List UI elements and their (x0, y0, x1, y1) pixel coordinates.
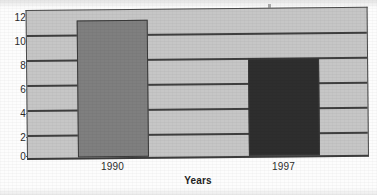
x-axis-title: Years (27, 175, 369, 186)
y-axis-tick: 12 (0, 13, 26, 23)
plot-area (26, 7, 369, 160)
y-axis-tick: 10 (0, 37, 26, 47)
y-axis-tick-label: 10 (14, 36, 26, 47)
y-axis-tick: 2 (0, 133, 26, 143)
x-axis-tick-label: 1990 (88, 161, 138, 172)
bar-chart-figure: 12 10 8 6 4 2 0 19901997 Year (0, 0, 377, 195)
x-axis-tick-label: 1997 (259, 161, 309, 172)
plot-area-wrapper (26, 7, 369, 160)
y-axis-tick-label: 12 (14, 12, 26, 23)
y-axis-tick: 6 (0, 85, 26, 95)
bar-1997 (248, 58, 321, 156)
y-axis-tick: 0 (0, 152, 26, 162)
y-axis: 12 10 8 6 4 2 0 (0, 0, 26, 195)
bar-1990 (76, 19, 149, 157)
y-axis-tick: 8 (0, 61, 26, 71)
y-axis-tick: 4 (0, 109, 26, 119)
